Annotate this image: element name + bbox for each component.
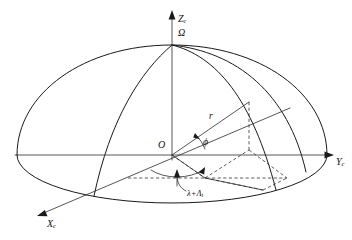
azimuth-prefix: λ+Λ	[187, 188, 202, 198]
x-axis-arrowhead	[37, 210, 48, 216]
azimuth-subscript: t	[202, 192, 204, 198]
diagram-canvas	[0, 0, 352, 240]
origin-label: O	[158, 140, 165, 150]
x-axis-label: Xc	[47, 219, 56, 230]
z-axis-label: Zc	[178, 14, 186, 25]
phi-angle-label: ϕ	[203, 137, 208, 147]
y-axis-label: Yc	[336, 157, 344, 168]
projection-edge-right	[249, 150, 287, 178]
y-axis-subscript: c	[342, 160, 345, 167]
z-axis-subscript: c	[184, 17, 187, 24]
z-axis-arrowhead	[169, 10, 176, 20]
y-axis-arrowhead	[325, 152, 335, 159]
azimuth-tick-arrowhead	[174, 169, 180, 178]
celestial-sphere-diagram: Zc Ω Yc Xc O r ϕ λ+Λt	[0, 0, 352, 240]
x-axis-subscript: c	[53, 222, 56, 229]
radius-label: r	[209, 112, 213, 122]
azimuth-angle-label: λ+Λt	[187, 189, 203, 198]
radius-vector-line	[172, 102, 249, 155]
pole-label: Ω	[178, 28, 185, 38]
projection-triangle-solid	[172, 155, 263, 190]
meridian-arc-right	[172, 45, 276, 190]
meridian-arc-left	[94, 45, 172, 196]
equator-ellipse-front	[17, 155, 327, 203]
azimuth-angle-arrowhead	[199, 167, 205, 174]
projection-edge-oblique-upper	[205, 150, 249, 178]
